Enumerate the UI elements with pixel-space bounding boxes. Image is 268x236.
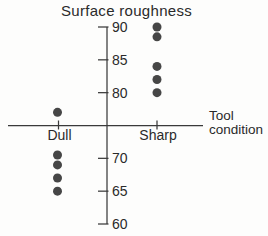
y-tick-label: 65 [112,183,128,199]
category-label: Dull [47,127,71,143]
y-tick-label: 80 [112,85,128,101]
data-dot-dull [53,108,62,117]
y-tick-label: 90 [112,19,128,35]
data-dot-sharp [153,32,162,41]
data-dot-dull [53,187,62,196]
data-dot-dull [53,151,62,160]
data-dot-sharp [153,23,162,32]
data-dot-sharp [153,75,162,84]
y-tick-label: 85 [112,52,128,68]
y-tick-label: 70 [112,150,128,166]
data-dot-dull [53,160,62,169]
category-label: Sharp [139,127,177,143]
data-dot-sharp [153,62,162,71]
dot-diagram-figure: Surface roughness Tool condition 9085807… [0,0,268,236]
data-dot-sharp [153,88,162,97]
y-tick-label: 60 [112,216,128,232]
plot-area: 908580706560DullSharp [0,0,268,236]
data-dot-dull [53,174,62,183]
